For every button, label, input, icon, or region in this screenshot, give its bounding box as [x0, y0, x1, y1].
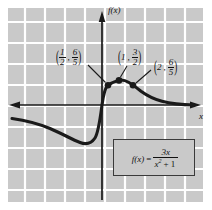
- formula-box: f(x)=3xx2+ 1: [113, 139, 195, 176]
- paren-open: (: [154, 59, 157, 76]
- point-half-label: (12,65): [56, 48, 81, 67]
- paren-close: ): [174, 59, 177, 76]
- formula-numerator: 3x: [153, 148, 178, 157]
- formula-denominator: x2+ 1: [153, 157, 178, 169]
- x-axis-label: x: [199, 112, 203, 121]
- paren-open: (: [56, 49, 59, 66]
- fraction-one-half: 12: [59, 48, 66, 67]
- paren-close: ): [78, 49, 81, 66]
- y-axis-label: f(x): [108, 6, 121, 15]
- formula-equals: =: [144, 154, 153, 164]
- point-two-x: 2: [157, 62, 162, 72]
- plot-canvas: [0, 0, 212, 210]
- formula-fraction: 3xx2+ 1: [153, 148, 178, 169]
- formula-lhs: f(x): [132, 154, 145, 164]
- point-two-label: (2,65): [154, 58, 177, 77]
- point-one-marker: [116, 77, 123, 84]
- formula-expression: f(x)=3xx2+ 1: [114, 140, 196, 177]
- function-graph-figure: f(x) x (12,65) (1,32) (2,65) f(x)=3xx2+ …: [0, 0, 212, 210]
- paren-close: ): [138, 49, 141, 66]
- point-two-marker: [130, 82, 137, 89]
- point-one-x: 1: [121, 52, 126, 62]
- point-half-marker: [105, 82, 112, 89]
- denominator-tail: + 1: [161, 159, 177, 169]
- paren-open: (: [118, 49, 121, 66]
- point-one-label: (1,32): [118, 48, 141, 67]
